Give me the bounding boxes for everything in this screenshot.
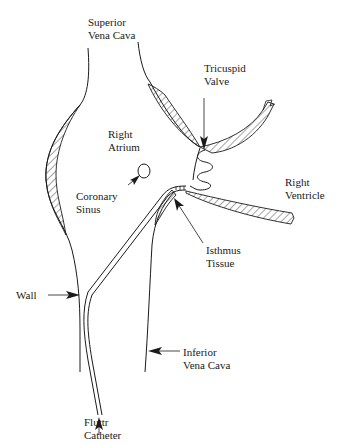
fluttr-catheter-inner (88, 190, 186, 415)
lower-ventricle-leaflet (186, 191, 294, 224)
left-wall-hatch (46, 105, 80, 235)
svc-right-contour (138, 42, 200, 147)
tricuspid-valve-leaflet (190, 150, 213, 190)
label-right-atrium: Right Atrium (108, 128, 140, 154)
fluttr-catheter-outer (84, 186, 186, 415)
label-isthmus-tissue: Isthmus Tissue (206, 244, 241, 270)
heart-diagram (0, 0, 349, 445)
isthmus-arrow-shaft (178, 204, 203, 243)
label-superior-vena-cava: Superior Vena Cava (88, 16, 135, 42)
label-inferior-vena-cava: Inferior Vena Cava (183, 346, 230, 372)
label-tricuspid-valve: Tricuspid Valve (204, 62, 246, 88)
upper-right-hatch (148, 84, 200, 147)
label-fluttr-catheter: Fluttr Catheter (84, 416, 121, 442)
label-wall: Wall (16, 289, 37, 302)
label-coronary-sinus: Coronary Sinus (76, 190, 118, 216)
label-right-ventricle: Right Ventricle (285, 176, 325, 202)
isthmus-arrow-head (174, 198, 184, 211)
coronary-sinus-ostium (138, 164, 150, 178)
coronary-sinus-arrow-head (130, 175, 140, 185)
isthmus-hatch (155, 190, 176, 225)
ivc-right-contour (145, 192, 174, 372)
